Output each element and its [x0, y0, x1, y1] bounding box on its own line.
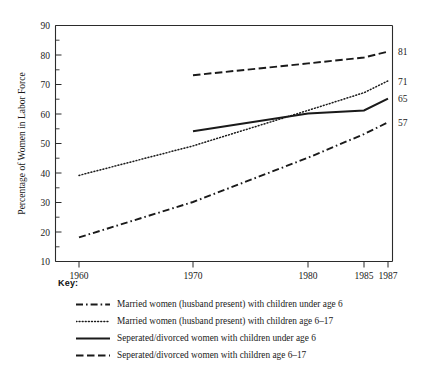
legend-item-separated-6-17: Seperated/divorced women with children a…	[76, 346, 426, 363]
end-label-married-6-17: 71	[398, 77, 408, 87]
dotted-line-icon	[76, 315, 110, 327]
y-tick-label: 20	[41, 228, 51, 238]
y-axis-major-ticks	[56, 26, 62, 262]
legend-item-separated-under-6: Seperated/divorced women with children u…	[76, 329, 426, 346]
end-label-married-under-6: 57	[398, 118, 408, 128]
dashed-line-icon	[76, 349, 110, 361]
legend-items: Married women (husband present) with chi…	[76, 295, 426, 363]
series-line-separated-under-6	[193, 99, 388, 132]
solid-line-icon	[76, 332, 110, 344]
x-axis-ticks	[79, 262, 388, 268]
y-tick-label: 10	[41, 257, 51, 267]
plot-svg: 90 80 70 60 50 40 30 20 10 1960	[0, 0, 429, 285]
y-tick-label: 80	[41, 51, 51, 61]
y-tick-label: 90	[41, 21, 51, 31]
chart-legend: Key: Married women (husband present) wit…	[0, 278, 429, 374]
series-line-separated-6-17	[193, 52, 388, 76]
line-chart-figure: 90 80 70 60 50 40 30 20 10 1960	[0, 0, 429, 374]
dash-dot-line-icon	[76, 298, 110, 310]
legend-item-label: Married women (husband present) with chi…	[117, 299, 343, 309]
series-line-married-6-17	[79, 81, 388, 175]
y-tick-label: 50	[41, 139, 51, 149]
end-label-separated-6-17: 81	[398, 47, 408, 57]
plot-area: 90 80 70 60 50 40 30 20 10 1960	[0, 0, 429, 285]
y-axis-tick-labels: 90 80 70 60 50 40 30 20 10	[41, 21, 51, 267]
legend-item-married-under-6: Married women (husband present) with chi…	[76, 295, 426, 312]
y-tick-label: 70	[41, 80, 51, 90]
y-tick-label: 40	[41, 169, 51, 179]
y-tick-label: 60	[41, 110, 51, 120]
legend-item-married-6-17: Married women (husband present) with chi…	[76, 312, 426, 329]
legend-item-label: Seperated/divorced women with children a…	[117, 350, 306, 360]
legend-item-label: Seperated/divorced women with children u…	[117, 333, 316, 343]
legend-item-label: Married women (husband present) with chi…	[117, 316, 333, 326]
y-tick-label: 30	[41, 198, 51, 208]
legend-title: Key:	[58, 278, 78, 288]
y-axis-title: Percentage of Women in Labor Force	[17, 72, 27, 214]
series-line-married-under-6	[79, 122, 388, 237]
end-label-separated-under-6: 65	[398, 94, 408, 104]
